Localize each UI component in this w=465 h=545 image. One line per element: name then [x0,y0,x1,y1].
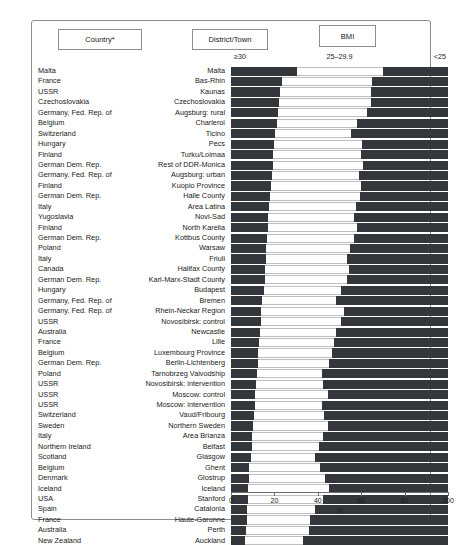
bar-segment-low [336,328,448,337]
bar-segment-high [231,254,266,263]
chart-row: ScotlandGlasgow [0,452,465,462]
bar-segment-low [361,150,448,159]
chart-row: Germany, Fed. Rep. ofAugsburg: rural [0,108,465,118]
bar-segment-high [231,202,269,211]
row-district-label: Stanford [105,494,225,504]
axis-tick-label: 100 [442,497,454,504]
bar-segment-low [332,348,448,357]
stacked-bar [231,265,448,274]
bar-segment-high [231,411,254,420]
bar-segment-low [323,432,448,441]
axis-line [231,492,448,493]
row-district-label: Auckland [105,536,225,545]
bar-segment-high [231,244,266,253]
bar-segment-mid [266,244,351,253]
stacked-bar [231,348,448,357]
chart-rows: MaltaMaltaFranceBas-RhinUSSRKaunasCzecho… [0,66,465,545]
bar-segment-high [231,359,258,368]
bar-segment-low [362,140,448,149]
stacked-bar [231,171,448,180]
axis-title: % [336,507,342,514]
row-district-label: Czechoslovakia [105,97,225,107]
stacked-bar [231,181,448,190]
legend-label-high: ≥30 [234,52,246,61]
chart-row: SwitzerlandVaud/Fribourg [0,410,465,420]
bar-segment-mid [256,380,323,389]
row-district-label: Catalonia [105,504,225,514]
bar-segment-mid [265,265,350,274]
chart-row: USSRNovosibirsk: intervention [0,379,465,389]
bar-segment-low [325,474,448,483]
bar-segment-mid [255,390,328,399]
row-district-label: Charleroi [105,118,225,128]
row-district-label: Haute-Garonne [105,515,225,525]
row-district-label: Vaud/Fribourg [105,410,225,420]
x-axis: % 020406080100 [231,492,448,522]
axis-tick-label: 60 [357,497,365,504]
stacked-bar [231,140,448,149]
row-district-label: Lille [105,337,225,347]
bar-segment-low [324,411,448,420]
row-district-label: Northern Sweden [105,421,225,431]
bar-segment-mid [258,359,329,368]
stacked-bar [231,223,448,232]
bar-segment-low [371,87,448,96]
row-district-label: Malta [105,66,225,76]
header-box-country: Country* [58,29,142,50]
chart-row: USSRNovosibirsk: control [0,317,465,327]
stacked-bar [231,536,448,545]
bar-segment-mid [261,317,340,326]
bar-segment-mid [262,296,336,305]
bar-segment-low [360,192,448,201]
row-district-label: Kottbus County [105,233,225,243]
bar-segment-high [231,129,275,138]
row-district-label: Novosibirsk: control [105,317,225,327]
bar-segment-low [334,338,448,347]
bar-segment-high [231,442,252,451]
bar-segment-high [231,213,268,222]
bar-segment-low [309,526,448,535]
bar-segment-mid [252,432,324,441]
bar-segment-high [231,161,273,170]
bar-segment-low [356,202,448,211]
bar-segment-high [231,401,255,410]
bar-segment-low [354,213,448,222]
bar-segment-mid [269,202,356,211]
bar-segment-low [344,307,448,316]
stacked-bar [231,150,448,159]
bar-segment-high [231,67,297,76]
bar-segment-low [371,98,448,107]
bar-segment-mid [254,411,325,420]
stacked-bar [231,526,448,535]
bar-segment-low [323,380,448,389]
bar-segment-low [303,536,448,545]
bar-segment-high [231,348,258,357]
row-district-label: Kuopio Province [105,181,225,191]
bar-segment-mid [253,421,328,430]
chart-row: German Dem. Rep.Halle County [0,191,465,201]
stacked-bar [231,338,448,347]
bar-segment-low [361,181,448,190]
stacked-bar [231,202,448,211]
row-district-label: Karl-Marx-Stadt County [105,275,225,285]
chart-row: German Dem. Rep.Kottbus County [0,233,465,243]
chart-row: BelgiumLuxembourg Province [0,348,465,358]
header-label-country: Country* [85,35,115,44]
bar-segment-high [231,150,273,159]
chart-row: New ZealandAuckland [0,536,465,545]
bar-segment-mid [278,108,367,117]
bar-segment-high [231,171,272,180]
chart-figure: Country* District/Town BMI ≥30 25–29.9 <… [0,0,465,545]
bar-segment-low [351,129,448,138]
stacked-bar [231,369,448,378]
bar-segment-high [231,463,249,472]
stacked-bar [231,244,448,253]
row-district-label: Iceland [105,484,225,494]
row-district-label: Novi-Sad [105,212,225,222]
bar-segment-mid [282,77,372,86]
stacked-bar [231,77,448,86]
row-district-label: North Karelia [105,223,225,233]
bar-segment-high [231,265,265,274]
bar-segment-mid [252,442,319,451]
row-district-label: Perth [105,525,225,535]
